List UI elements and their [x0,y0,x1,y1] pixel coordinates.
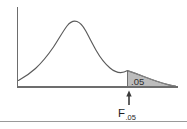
critical-value-pointer-arrowhead [126,91,131,97]
critical-value-symbol: F [118,107,125,119]
f-distribution-figure: .05 F .05 [0,0,187,129]
tail-area-label: .05 [131,76,144,87]
f-distribution-svg: .05 F .05 [0,0,187,129]
critical-value-subscript: .05 [126,113,136,122]
f-density-curve [19,21,176,86]
